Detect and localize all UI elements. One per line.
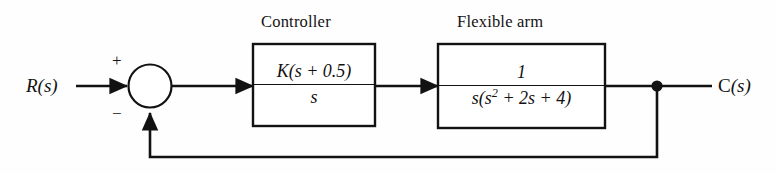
output-signal-label: C(s): [718, 76, 751, 95]
summing-junction-plus-sign: +: [112, 52, 122, 69]
output-signal-arg: (s): [731, 75, 751, 96]
controller-denominator: s: [306, 85, 321, 108]
flexible-arm-caption: Flexible arm: [457, 14, 543, 31]
flexible-arm-numerator: 1: [513, 63, 530, 85]
input-signal-label: R(s): [26, 76, 58, 95]
input-signal-name: R: [26, 75, 38, 96]
controller-numerator: K(s + 0.5): [273, 62, 356, 84]
input-signal-arg: (s): [38, 75, 58, 96]
controller-caption: Controller: [261, 14, 331, 31]
flexible-arm-transfer-function: 1 s(s2 + 2s + 4): [438, 44, 605, 128]
flexible-arm-denominator: s(s2 + 2s + 4): [468, 86, 575, 109]
summing-junction-minus-sign: −: [112, 105, 122, 122]
controller-transfer-function: K(s + 0.5) s: [253, 44, 375, 126]
diagram-vector-layer: [0, 0, 776, 174]
block-diagram-canvas: R(s) + − Controller K(s + 0.5) s Flexibl…: [0, 0, 776, 174]
flexible-arm-denominator-prefix: s(s: [472, 88, 492, 108]
summing-junction-circle: [129, 65, 172, 108]
flexible-arm-denominator-suffix: + 2s + 4): [498, 88, 571, 108]
output-signal-name: C: [718, 75, 731, 96]
